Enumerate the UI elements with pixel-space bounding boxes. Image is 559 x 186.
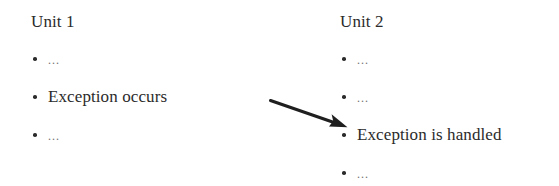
bullet-dot-icon: [33, 95, 37, 99]
list-item-label: ...: [357, 164, 369, 184]
bullet-dot-icon: [342, 57, 346, 61]
bullet-dot-icon: [342, 171, 346, 175]
column-title-unit-2: Unit 2: [340, 12, 384, 32]
bullet-dot-icon: [33, 133, 37, 137]
column-title-unit-1: Unit 1: [31, 12, 75, 32]
bullet-dot-icon: [342, 133, 346, 137]
list-item-label: Exception occurs: [48, 87, 167, 107]
bullet-dot-icon: [342, 95, 346, 99]
column-unit-2: Unit 2 ... ... Exception is handled ...: [340, 0, 555, 186]
list-item-label: ...: [357, 88, 369, 108]
bullet-dot-icon: [33, 57, 37, 61]
diagram-canvas: Unit 1 ... Exception occurs ... Unit 2 .…: [0, 0, 559, 186]
column-unit-1: Unit 1 ... Exception occurs ...: [31, 0, 261, 186]
list-item-label: ...: [48, 50, 60, 70]
list-item-label: Exception is handled: [357, 125, 502, 145]
list-item-label: ...: [357, 50, 369, 70]
list-item-label: ...: [48, 126, 60, 146]
